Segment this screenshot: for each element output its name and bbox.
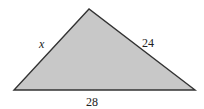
base-label: 28 — [86, 95, 98, 109]
triangle-diagram: x 24 28 — [0, 0, 204, 109]
right-side-label: 24 — [142, 36, 154, 50]
left-side-label: x — [38, 37, 45, 51]
